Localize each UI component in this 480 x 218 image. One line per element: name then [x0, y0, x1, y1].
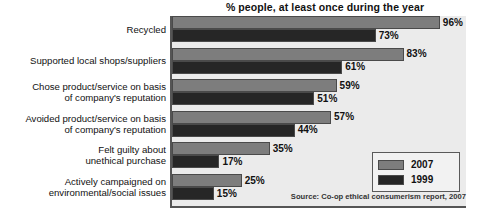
- category-label: Avoided product/service on basisof compa…: [0, 113, 166, 135]
- bar-value-label: 59%: [337, 79, 360, 92]
- legend-swatch-2007-icon: [378, 160, 404, 170]
- bar-row: 44%: [172, 124, 466, 137]
- bar-group: 59%51%: [172, 79, 466, 105]
- bar-value-label: 25%: [242, 174, 265, 187]
- legend-label: 1999: [411, 174, 433, 185]
- bar-value-label: 44%: [295, 123, 318, 136]
- chart-title: % people, at least once during the year: [180, 1, 470, 13]
- bar-row: 73%: [172, 29, 466, 42]
- bar-value-label: 61%: [342, 60, 365, 73]
- legend-swatch-1999-icon: [378, 175, 404, 185]
- source-note: Source: Co-op ethical consumerism report…: [291, 192, 466, 201]
- bar-2007: [172, 174, 242, 187]
- bar-1999: [172, 155, 219, 168]
- bar-group: 57%44%: [172, 111, 466, 137]
- bar-chart-figure: % people, at least once during the year …: [0, 0, 480, 218]
- legend-label: 2007: [411, 159, 433, 170]
- bar-2007: [172, 142, 270, 155]
- category-label: Chose product/service on basisof company…: [0, 81, 166, 103]
- bar-value-label: 96%: [440, 16, 463, 29]
- bar-value-label: 51%: [314, 92, 337, 105]
- bar-row: 96%: [172, 16, 466, 29]
- bar-1999: [172, 124, 295, 137]
- bar-2007: [172, 79, 337, 92]
- x-axis-line: [170, 206, 466, 208]
- category-label: Actively campaigned onenvironmental/soci…: [0, 176, 166, 198]
- category-label: Supported local shops/suppliers: [0, 55, 166, 66]
- bar-row: 57%: [172, 111, 466, 124]
- bar-value-label: 73%: [376, 29, 399, 42]
- bar-value-label: 57%: [331, 110, 354, 123]
- legend-item: 1999: [378, 172, 454, 187]
- bar-row: 61%: [172, 61, 466, 74]
- bar-2007: [172, 16, 440, 29]
- bar-2007: [172, 111, 331, 124]
- legend-item: 2007: [378, 157, 454, 172]
- bar-2007: [172, 48, 404, 61]
- bar-row: 83%: [172, 48, 466, 61]
- bar-1999: [172, 187, 214, 200]
- bar-value-label: 83%: [404, 47, 427, 60]
- chart-legend: 2007 1999: [372, 152, 460, 192]
- bar-1999: [172, 29, 376, 42]
- bar-row: 51%: [172, 92, 466, 105]
- bar-group: 96%73%: [172, 16, 466, 42]
- bar-1999: [172, 61, 342, 74]
- category-axis-labels: RecycledSupported local shops/suppliersC…: [0, 16, 166, 206]
- bar-1999: [172, 92, 314, 105]
- bar-value-label: 15%: [214, 187, 237, 200]
- bar-row: 59%: [172, 79, 466, 92]
- bar-value-label: 35%: [270, 142, 293, 155]
- category-label: Recycled: [0, 24, 166, 35]
- bar-value-label: 17%: [219, 155, 242, 168]
- bar-group: 83%61%: [172, 48, 466, 74]
- category-label: Felt guilty aboutunethical purchase: [0, 144, 166, 166]
